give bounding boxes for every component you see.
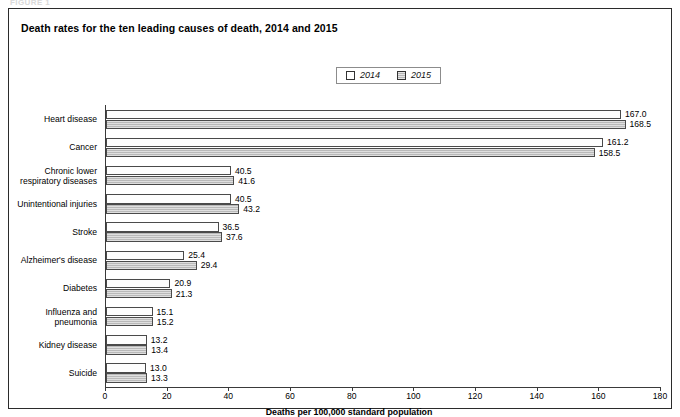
x-tick-label: 180 — [653, 392, 667, 401]
bar-value-label: 43.2 — [243, 205, 260, 214]
category-label: Kidney disease — [5, 340, 97, 350]
bar-fill — [106, 335, 147, 345]
bar-row: 40.543.2 — [106, 190, 661, 218]
bar-2014[interactable]: 40.5 — [106, 194, 231, 204]
x-tick-label: 120 — [468, 392, 482, 401]
bar-fill — [106, 251, 184, 261]
bar-2014[interactable]: 161.2 — [106, 138, 603, 148]
bar-2014[interactable]: 15.1 — [106, 307, 153, 317]
legend-label-2015: 2015 — [411, 71, 431, 80]
plot-area: 167.0168.5161.2158.540.541.640.543.236.5… — [105, 105, 668, 387]
bar-row: 15.115.2 — [106, 302, 661, 330]
category-label: Chronic lower respiratory diseases — [5, 166, 97, 186]
bar-2014[interactable]: 36.5 — [106, 222, 219, 232]
bar-fill — [106, 363, 146, 373]
bar-2015[interactable]: 168.5 — [106, 120, 626, 130]
legend-entry-2015[interactable]: 2015 — [397, 71, 431, 80]
bar-fill — [106, 232, 222, 242]
bar-value-label: 168.5 — [630, 120, 652, 129]
bar-fill — [106, 261, 197, 271]
bar-2015[interactable]: 43.2 — [106, 204, 239, 214]
x-tick-label: 100 — [406, 392, 420, 401]
bar-fill — [106, 289, 172, 299]
x-axis-ticks: 020406080100120140160180 — [105, 387, 668, 407]
bar-fill — [106, 373, 147, 383]
legend-entry-2014[interactable]: 2014 — [346, 71, 380, 80]
category-axis-labels: Heart diseaseCancerChronic lower respira… — [9, 105, 101, 387]
category-label: Heart disease — [5, 114, 97, 124]
bar-2015[interactable]: 15.2 — [106, 317, 153, 327]
bar-fill — [106, 222, 219, 232]
figure-root: FIGURE 1 Death rates for the ten leading… — [0, 0, 680, 417]
bar-fill — [106, 176, 234, 186]
bar-2014[interactable]: 167.0 — [106, 110, 621, 120]
bar-fill — [106, 120, 626, 130]
category-label: Unintentional injuries — [5, 199, 97, 209]
chart-panel: Death rates for the ten leading causes o… — [8, 8, 672, 409]
bar-2014[interactable]: 13.2 — [106, 335, 147, 345]
bar-row: 161.2158.5 — [106, 133, 661, 161]
bar-fill — [106, 138, 603, 148]
bar-value-label: 15.1 — [157, 307, 174, 316]
x-tick-label: 40 — [224, 392, 234, 401]
bar-value-label: 167.0 — [625, 110, 647, 119]
bar-value-label: 40.5 — [235, 166, 252, 175]
bar-fill — [106, 204, 239, 214]
legend-swatch-2014-icon — [346, 71, 355, 80]
bar-value-label: 15.2 — [157, 317, 174, 326]
bar-value-label: 13.3 — [151, 374, 168, 383]
bar-value-label: 36.5 — [223, 223, 240, 232]
bar-value-label: 13.4 — [151, 346, 168, 355]
bar-row: 25.429.4 — [106, 246, 661, 274]
bar-fill — [106, 307, 153, 317]
x-tick-label: 160 — [591, 392, 605, 401]
bar-2015[interactable]: 41.6 — [106, 176, 234, 186]
bar-row: 167.0168.5 — [106, 105, 661, 133]
bar-row: 20.921.3 — [106, 274, 661, 302]
x-tick-label: 60 — [285, 392, 295, 401]
bar-value-label: 37.6 — [226, 233, 243, 242]
bar-value-label: 40.5 — [235, 195, 252, 204]
bar-value-label: 13.2 — [151, 336, 168, 345]
bar-value-label: 158.5 — [599, 148, 621, 157]
bar-value-label: 21.3 — [176, 289, 193, 298]
x-tick-label: 140 — [529, 392, 543, 401]
bar-row: 36.537.6 — [106, 218, 661, 246]
chart-title: Death rates for the ten leading causes o… — [21, 22, 338, 34]
bar-row: 13.013.3 — [106, 359, 661, 387]
bar-2014[interactable]: 13.0 — [106, 363, 146, 373]
bar-2015[interactable]: 21.3 — [106, 289, 172, 299]
x-axis-title: Deaths per 100,000 standard population — [9, 407, 680, 417]
bar-2015[interactable]: 158.5 — [106, 148, 595, 158]
bar-value-label: 20.9 — [174, 279, 191, 288]
bar-2014[interactable]: 20.9 — [106, 279, 170, 289]
bar-value-label: 161.2 — [607, 138, 629, 147]
bar-2015[interactable]: 13.4 — [106, 345, 147, 355]
category-label: Diabetes — [5, 283, 97, 293]
bar-2015[interactable]: 37.6 — [106, 232, 222, 242]
bar-fill — [106, 279, 170, 289]
legend-label-2014: 2014 — [360, 71, 380, 80]
bar-value-label: 29.4 — [201, 261, 218, 270]
category-label: Stroke — [5, 227, 97, 237]
bar-fill — [106, 148, 595, 158]
bar-value-label: 13.0 — [150, 364, 167, 373]
category-label: Suicide — [5, 368, 97, 378]
bar-2014[interactable]: 40.5 — [106, 166, 231, 176]
bar-2015[interactable]: 13.3 — [106, 373, 147, 383]
category-label: Cancer — [5, 142, 97, 152]
bar-row: 13.213.4 — [106, 331, 661, 359]
bar-value-label: 25.4 — [188, 251, 205, 260]
bar-fill — [106, 110, 621, 120]
bar-rows: 167.0168.5161.2158.540.541.640.543.236.5… — [106, 105, 661, 387]
x-tick-label: 80 — [347, 392, 357, 401]
bar-value-label: 41.6 — [238, 176, 255, 185]
legend-swatch-2015-icon — [397, 71, 406, 80]
bar-2014[interactable]: 25.4 — [106, 251, 184, 261]
bar-fill — [106, 345, 147, 355]
category-label: Alzheimer's disease — [5, 255, 97, 265]
bar-2015[interactable]: 29.4 — [106, 261, 197, 271]
bar-fill — [106, 194, 231, 204]
bar-fill — [106, 166, 231, 176]
bar-row: 40.541.6 — [106, 161, 661, 189]
